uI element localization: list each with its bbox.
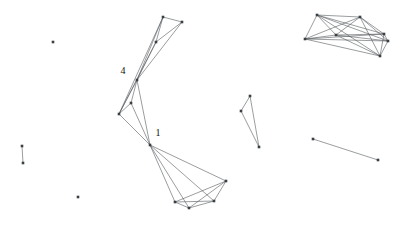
- graph-edge: [189, 201, 214, 208]
- graph-node[interactable]: [379, 55, 382, 58]
- graph-node[interactable]: [149, 144, 152, 147]
- graph-node[interactable]: [258, 146, 261, 149]
- graph-node[interactable]: [174, 201, 177, 204]
- graph-edge: [119, 80, 137, 114]
- graph-node[interactable]: [21, 145, 24, 148]
- edge-layer: [22, 15, 388, 208]
- graph-node[interactable]: [377, 159, 380, 162]
- graph-node[interactable]: [383, 33, 386, 36]
- graph-node[interactable]: [312, 138, 315, 141]
- graph-node[interactable]: [240, 110, 243, 113]
- graph-edge: [119, 114, 150, 145]
- graph-edge: [137, 22, 182, 80]
- graph-edge: [241, 111, 259, 147]
- graph-edge: [131, 103, 150, 145]
- node-label: 4: [121, 65, 126, 76]
- graph-node[interactable]: [225, 180, 228, 183]
- graph-canvas: 41: [0, 0, 413, 235]
- graph-node[interactable]: [22, 162, 25, 165]
- graph-edge: [150, 145, 175, 202]
- graph-edge: [250, 96, 259, 147]
- graph-edge: [189, 181, 226, 208]
- graph-edge: [137, 80, 150, 145]
- graph-edge: [360, 17, 384, 34]
- graph-edge: [317, 15, 384, 34]
- graph-edge: [214, 181, 226, 201]
- graph-node[interactable]: [213, 200, 216, 203]
- graph-node[interactable]: [249, 95, 252, 98]
- graph-node[interactable]: [181, 21, 184, 24]
- graph-node[interactable]: [155, 41, 158, 44]
- graph-edge: [360, 17, 380, 56]
- graph-edge: [175, 181, 226, 202]
- graph-node[interactable]: [162, 16, 165, 19]
- graph-edge: [305, 39, 380, 56]
- graph-node[interactable]: [387, 40, 390, 43]
- graph-node[interactable]: [188, 207, 191, 210]
- node-label: 1: [156, 127, 161, 138]
- graph-node[interactable]: [136, 79, 139, 82]
- graph-node[interactable]: [304, 38, 307, 41]
- graph-edge: [150, 145, 214, 201]
- graph-edge: [241, 96, 250, 111]
- graph-edge: [119, 103, 131, 114]
- graph-edge: [305, 15, 317, 39]
- graph-edge: [317, 15, 380, 56]
- graph-edge: [137, 17, 163, 80]
- node-link-graph: 41: [0, 0, 413, 235]
- graph-node[interactable]: [77, 196, 80, 199]
- graph-node[interactable]: [335, 34, 338, 37]
- graph-node[interactable]: [316, 14, 319, 17]
- graph-edge: [336, 35, 380, 56]
- graph-node[interactable]: [359, 16, 362, 19]
- graph-node[interactable]: [52, 41, 55, 44]
- graph-edge: [360, 17, 388, 41]
- label-layer: 41: [121, 65, 161, 138]
- node-layer: [21, 14, 390, 210]
- graph-edge: [131, 80, 137, 103]
- graph-edge: [163, 17, 182, 22]
- graph-edge: [175, 201, 214, 202]
- graph-edge: [313, 139, 378, 160]
- graph-node[interactable]: [118, 113, 121, 116]
- graph-node[interactable]: [130, 102, 133, 105]
- graph-edge: [22, 146, 23, 163]
